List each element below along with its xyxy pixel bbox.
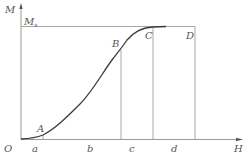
x-tick-c: c bbox=[129, 143, 135, 154]
x-tick-b: b bbox=[87, 143, 93, 154]
x-tick-a: a bbox=[32, 143, 38, 154]
magnetization-curve-diagram: M Ms A B C D O a b c d H bbox=[0, 0, 250, 164]
point-label-b: B bbox=[111, 38, 119, 49]
y-axis-label: M bbox=[4, 4, 16, 15]
point-label-d: D bbox=[185, 30, 194, 41]
x-tick-d: d bbox=[171, 143, 177, 154]
origin-label: O bbox=[4, 143, 12, 154]
saturation-label: Ms bbox=[23, 16, 37, 28]
x-axis-arrow-icon bbox=[236, 138, 243, 141]
x-axis-label: H bbox=[233, 143, 243, 154]
y-axis-arrow-icon bbox=[19, 3, 22, 9]
point-label-a: A bbox=[36, 123, 44, 134]
point-label-c: C bbox=[145, 30, 153, 41]
